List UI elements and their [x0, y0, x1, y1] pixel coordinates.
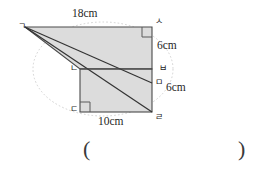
vertex-label-n: ㄴ — [70, 64, 78, 73]
vertex-label-d: ㄷ — [70, 105, 78, 114]
upper-shaded-region — [25, 27, 152, 69]
measure-label-bottom: 10cm — [98, 116, 124, 128]
answer-close-paren: ) — [238, 138, 245, 160]
vertex-label-s: ㅅ — [155, 17, 163, 26]
geometry-figure: ㄱ ㅅ ㅂ ㅁ ㄹ ㄴ ㄷ 18cm 6cm 6cm 10cm ( ) — [0, 0, 261, 180]
vertex-label-g: ㄱ — [18, 22, 26, 31]
vertex-label-m: ㅁ — [155, 78, 163, 87]
vertex-label-b: ㅂ — [159, 64, 167, 73]
answer-open-paren: ( — [83, 138, 90, 160]
measure-label-right-lower: 6cm — [166, 82, 186, 94]
vertex-label-r: ㄹ — [155, 113, 163, 122]
lower-shaded-rectangle — [80, 69, 152, 112]
measure-label-right-upper: 6cm — [157, 40, 177, 52]
geometry-svg — [0, 0, 261, 180]
measure-label-top: 18cm — [72, 8, 98, 20]
